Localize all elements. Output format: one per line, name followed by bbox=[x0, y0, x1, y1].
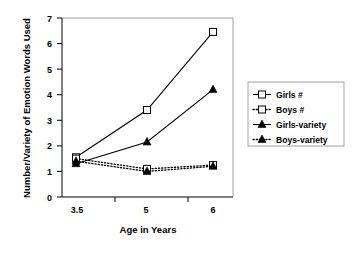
x-axis: 3.5 5 6 bbox=[62, 197, 233, 215]
legend-label-boys-count: Boys # bbox=[276, 105, 304, 115]
legend-item-girls-count[interactable]: Girls # bbox=[253, 90, 303, 100]
x-tick-label-2: 6 bbox=[210, 205, 215, 215]
legend-label-girls-variety: Girls-variety bbox=[276, 120, 326, 130]
legend-label-girls-count: Girls # bbox=[276, 90, 303, 100]
series-girls-variety bbox=[72, 85, 217, 167]
y-tick-label-2: 2 bbox=[47, 141, 52, 151]
y-tick-label-1: 1 bbox=[47, 167, 52, 177]
y-tick-label-3: 3 bbox=[47, 116, 52, 126]
y-axis: 0 1 2 3 4 5 6 7 bbox=[47, 14, 62, 203]
y-tick-label-6: 6 bbox=[47, 39, 52, 49]
data-point-marker bbox=[143, 138, 151, 146]
data-point-marker bbox=[210, 28, 217, 35]
y-tick-label-5: 5 bbox=[47, 65, 52, 75]
y-tick-label-4: 4 bbox=[47, 90, 52, 100]
data-point-marker bbox=[144, 107, 151, 114]
legend-item-boys-count[interactable]: Boys # bbox=[253, 105, 304, 115]
series-girls-count bbox=[73, 28, 217, 160]
chart-legend: Girls # Boys # Girls-variety Boys-variet… bbox=[248, 82, 344, 146]
y-axis-title: Number/Variety of Emotion Words Used bbox=[21, 18, 32, 198]
chart-svg: 0 1 2 3 4 5 6 7 Number/Variety of Emotio… bbox=[0, 0, 362, 255]
legend-open-square-icon bbox=[259, 106, 266, 113]
y-tick-label-0: 0 bbox=[47, 193, 52, 203]
legend-open-square-icon bbox=[259, 91, 266, 98]
x-axis-title: Age in Years bbox=[120, 224, 177, 235]
legend-label-boys-variety: Boys-variety bbox=[276, 135, 328, 145]
data-point-marker bbox=[209, 85, 217, 93]
chart-figure: 0 1 2 3 4 5 6 7 Number/Variety of Emotio… bbox=[0, 0, 362, 255]
x-tick-label-0: 3.5 bbox=[71, 205, 84, 215]
y-tick-label-7: 7 bbox=[47, 14, 52, 24]
x-tick-label-1: 5 bbox=[143, 205, 148, 215]
